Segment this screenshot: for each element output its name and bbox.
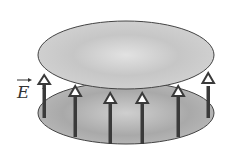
bottom-plate (38, 82, 214, 144)
capacitor-diagram (0, 0, 228, 152)
top-plate (38, 21, 214, 89)
field-label: E (17, 82, 29, 102)
